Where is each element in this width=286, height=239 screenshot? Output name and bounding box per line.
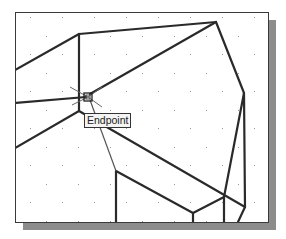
drawing-line[interactable] — [79, 22, 216, 34]
drawing-line[interactable] — [15, 97, 86, 103]
drawing-line[interactable] — [238, 207, 245, 222]
drawing-line[interactable] — [224, 93, 244, 197]
drawing-line[interactable] — [15, 111, 79, 148]
cad-drawing-canvas[interactable] — [0, 0, 286, 239]
drawing-line[interactable] — [216, 22, 244, 93]
drawing-line[interactable] — [15, 34, 79, 70]
rubberband-line — [90, 100, 116, 171]
drawing-line[interactable] — [244, 93, 245, 207]
drawing-line[interactable] — [90, 22, 216, 94]
drawing-line[interactable] — [116, 171, 193, 213]
osnap-tooltip-endpoint: Endpoint — [84, 113, 131, 128]
drawing-line[interactable] — [193, 197, 224, 213]
